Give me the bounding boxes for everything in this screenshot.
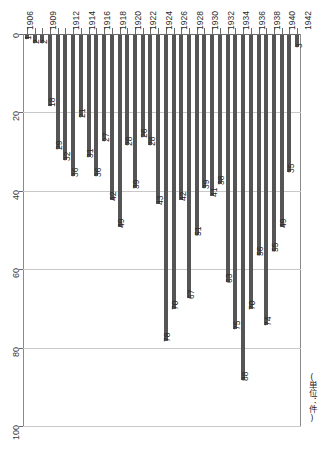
x-tick-label: 1924 — [164, 11, 174, 30]
bar[interactable] — [33, 35, 37, 43]
y-tick-label: 100 — [11, 425, 21, 440]
x-tick-label: 1916 — [102, 11, 112, 30]
bar[interactable] — [210, 35, 214, 196]
x-tick-label: 1928 — [195, 11, 205, 30]
bar[interactable] — [233, 35, 237, 329]
bar[interactable] — [40, 35, 44, 43]
x-tick-label: 1932 — [226, 11, 236, 30]
bar[interactable] — [295, 35, 299, 47]
y-tick-label: 20 — [11, 111, 21, 121]
x-tick-label: 1934 — [241, 11, 251, 30]
x-tick-label: 1922 — [148, 11, 158, 30]
x-tick-label: 1930 — [210, 11, 220, 30]
y-tick-label: 0 — [11, 33, 21, 38]
x-tick-mark — [65, 28, 66, 34]
axis-left-line — [23, 34, 24, 426]
x-tick-mark — [42, 28, 43, 34]
bar[interactable] — [218, 35, 222, 184]
bar[interactable] — [156, 35, 160, 204]
x-tick-label: 1906 — [25, 11, 35, 30]
x-tick-label: 1936 — [257, 11, 267, 30]
bar[interactable] — [257, 35, 261, 255]
x-tick-label: 1942 — [303, 11, 313, 30]
bar[interactable] — [63, 35, 67, 160]
bar[interactable] — [48, 35, 52, 106]
gridline — [23, 348, 301, 349]
gridline — [23, 269, 301, 270]
bar[interactable] — [110, 35, 114, 200]
x-tick-label: 1909 — [48, 11, 58, 30]
axis-right-line — [300, 34, 301, 426]
bar[interactable] — [195, 35, 199, 235]
bar[interactable] — [125, 35, 129, 145]
x-tick-label: 1938 — [272, 11, 282, 30]
x-tick-mark — [189, 28, 190, 34]
bar[interactable] — [79, 35, 83, 117]
x-tick-mark — [220, 28, 221, 34]
bar[interactable] — [118, 35, 122, 227]
bar[interactable] — [133, 35, 137, 188]
bar[interactable] — [172, 35, 176, 309]
x-tick-label: 1914 — [87, 11, 97, 30]
bar[interactable] — [102, 35, 106, 141]
x-tick-label: 1926 — [179, 11, 189, 30]
x-tick-mark — [158, 28, 159, 34]
bar[interactable] — [94, 35, 98, 176]
bar[interactable] — [164, 35, 168, 341]
bar[interactable] — [179, 35, 183, 200]
x-tick-label: 1920 — [133, 11, 143, 30]
bar[interactable] — [187, 35, 191, 298]
bar[interactable] — [287, 35, 291, 172]
y-tick-label: 60 — [11, 268, 21, 278]
x-tick-mark — [81, 28, 82, 34]
unit-note: (単位：件) — [306, 372, 318, 422]
y-tick-label: 40 — [11, 190, 21, 200]
x-tick-mark — [297, 28, 298, 34]
bar[interactable] — [148, 35, 152, 145]
x-tick-label: 1940 — [287, 11, 297, 30]
x-tick-label: 1912 — [71, 11, 81, 30]
bar-chart: 020406080100 190619091912191419161918192… — [0, 0, 321, 450]
x-tick-label: 1918 — [118, 11, 128, 30]
y-tick-label: 80 — [11, 347, 21, 357]
bar[interactable] — [87, 35, 91, 157]
bar[interactable] — [202, 35, 206, 188]
bar[interactable] — [249, 35, 253, 309]
bar[interactable] — [141, 35, 145, 137]
bar[interactable] — [272, 35, 276, 251]
bar[interactable] — [226, 35, 230, 282]
bar[interactable] — [25, 35, 29, 39]
gridline — [23, 426, 301, 427]
bar[interactable] — [264, 35, 268, 325]
bar[interactable] — [280, 35, 284, 227]
bar[interactable] — [56, 35, 60, 149]
bar[interactable] — [71, 35, 75, 176]
bar[interactable] — [241, 35, 245, 380]
